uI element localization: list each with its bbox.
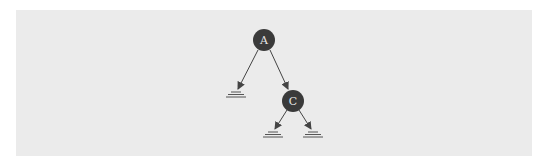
edge-a-left-null [238,50,258,89]
tree-diagram: A C [0,0,548,166]
tree-node-c: C [282,90,304,112]
node-label: A [259,34,269,47]
edge-c-right-null [299,110,311,129]
edge-c-left-null [275,110,287,129]
edge-a-c [270,50,288,89]
node-label: C [289,95,297,108]
null-leaf-icon [226,92,246,97]
null-leaf-icon [303,132,323,137]
null-leaf-icon [263,132,283,137]
tree-node-a: A [253,29,275,51]
